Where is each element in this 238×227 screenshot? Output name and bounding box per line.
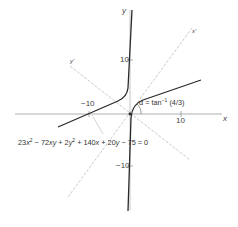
helper-line bbox=[92, 115, 103, 134]
eq-part: + 2 bbox=[56, 138, 68, 147]
eq-part: − 75 = 0 bbox=[119, 138, 148, 147]
eq-part: + 20 bbox=[99, 138, 115, 147]
angle-prefix: α = tan bbox=[139, 98, 162, 107]
x-prime-label: x' bbox=[192, 28, 196, 34]
eq-part: 23 bbox=[18, 138, 26, 147]
equation-label: 23x2 − 72xy + 2y2 + 140x + 20y − 75 = 0 bbox=[18, 139, 148, 146]
x-tick-label-10: 10 bbox=[176, 117, 185, 125]
angle-annotation: α = tan−1 (4/3) bbox=[139, 99, 184, 106]
y-tick-label-10: 10 bbox=[120, 56, 129, 64]
hyperbola-diagram: y x x' y' −10 10 10 −10 α = tan−1 (4/3) … bbox=[0, 0, 238, 227]
eq-part: + 140 bbox=[75, 138, 96, 147]
angle-suffix: (4/3) bbox=[167, 98, 184, 107]
x-axis-label: x bbox=[223, 115, 227, 123]
origin-point bbox=[129, 113, 132, 116]
diagram-canvas bbox=[0, 0, 238, 227]
y-tick-label-neg10: −10 bbox=[116, 162, 130, 170]
eq-part: − 72 bbox=[33, 138, 49, 147]
hyperbola-branch-upper bbox=[58, 10, 132, 127]
y-prime-label: y' bbox=[70, 58, 74, 64]
y-axis-label: y bbox=[122, 7, 126, 15]
x-tick-label-neg10: −10 bbox=[81, 100, 95, 108]
